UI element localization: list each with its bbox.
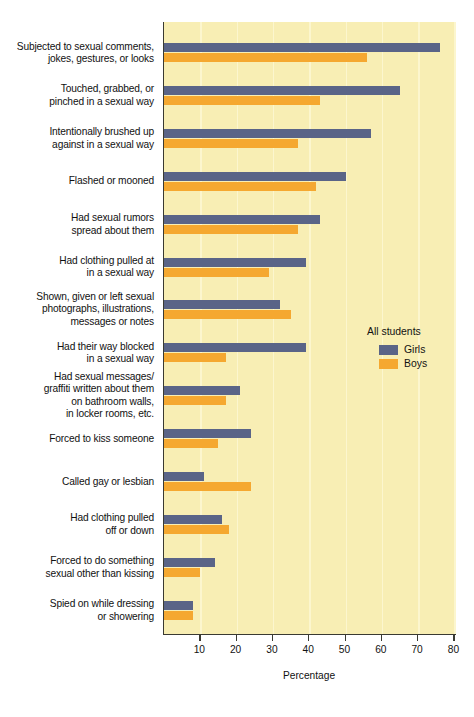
x-tick-mark-40 [308, 634, 309, 641]
category-label: Spied on while dressingor showering [0, 598, 154, 623]
bar-boys [164, 525, 229, 534]
bar-group [164, 172, 456, 191]
bar-boys [164, 182, 316, 191]
bar-boys [164, 439, 218, 448]
category-label: Touched, grabbed, orpinched in a sexual … [0, 83, 154, 108]
legend-item-boys: Boys [379, 358, 471, 369]
x-tick-mark-10 [199, 634, 200, 641]
category-label: Had clothing pulledoff or down [0, 512, 154, 537]
bar-group [164, 558, 456, 577]
category-label: Forced to kiss someone [0, 432, 154, 444]
bar-group [164, 43, 456, 62]
bar-girls [164, 386, 240, 395]
horizontal-bar-chart: Subjected to sexual comments,jokes, gest… [0, 0, 474, 717]
bar-boys [164, 225, 298, 234]
x-axis: 1020304050607080 [163, 634, 455, 674]
legend-item-girls: Girls [379, 344, 471, 355]
bar-girls [164, 86, 400, 95]
x-tick-mark-30 [272, 634, 273, 641]
bar-girls [164, 172, 346, 181]
x-tick-label-60: 60 [375, 644, 386, 655]
legend-swatch-girls [379, 345, 398, 355]
bar-group [164, 429, 456, 448]
x-tick-mark-20 [236, 634, 237, 641]
bar-boys [164, 482, 251, 491]
bar-group [164, 386, 456, 405]
bar-girls [164, 515, 222, 524]
bar-group [164, 258, 456, 277]
x-tick-mark-70 [417, 634, 418, 641]
category-axis-labels: Subjected to sexual comments,jokes, gest… [0, 22, 158, 634]
category-label: Called gay or lesbian [0, 475, 154, 487]
x-tick-label-10: 10 [194, 644, 205, 655]
category-label: Subjected to sexual comments,jokes, gest… [0, 40, 154, 65]
bar-group [164, 300, 456, 319]
category-label: Shown, given or left sexualphotographs, … [0, 291, 154, 328]
category-label: Had sexual messages/graffiti written abo… [0, 371, 154, 421]
legend-label-boys: Boys [404, 358, 427, 369]
category-label: Flashed or mooned [0, 175, 154, 187]
category-label: Had their way blockedin a sexual way [0, 340, 154, 365]
legend-title: All students [367, 326, 471, 337]
bar-girls [164, 429, 251, 438]
legend-swatch-boys [379, 359, 398, 369]
x-axis-title: Percentage [163, 670, 455, 681]
bar-girls [164, 472, 204, 481]
bar-group [164, 129, 456, 148]
x-tick-mark-60 [381, 634, 382, 641]
bar-group [164, 472, 456, 491]
x-tick-label-50: 50 [339, 644, 350, 655]
category-label: Had sexual rumorsspread about them [0, 212, 154, 237]
x-tick-mark-80 [453, 634, 454, 641]
legend-label-girls: Girls [404, 344, 425, 355]
category-label: Forced to do somethingsexual other than … [0, 555, 154, 580]
bar-group [164, 86, 456, 105]
bar-girls [164, 558, 215, 567]
bar-boys [164, 268, 269, 277]
x-tick-mark-50 [345, 634, 346, 641]
x-tick-label-20: 20 [230, 644, 241, 655]
bar-girls [164, 258, 306, 267]
x-tick-label-40: 40 [303, 644, 314, 655]
bar-girls [164, 129, 371, 138]
bar-boys [164, 611, 193, 620]
bar-boys [164, 568, 200, 577]
bar-girls [164, 601, 193, 610]
bar-girls [164, 300, 280, 309]
bar-boys [164, 310, 291, 319]
bar-girls [164, 43, 440, 52]
category-label: Had clothing pulled atin a sexual way [0, 255, 154, 280]
x-tick-label-30: 30 [266, 644, 277, 655]
x-tick-label-80: 80 [448, 644, 459, 655]
bar-boys [164, 53, 367, 62]
bar-boys [164, 96, 320, 105]
bar-boys [164, 139, 298, 148]
x-tick-label-70: 70 [411, 644, 422, 655]
bar-group [164, 515, 456, 534]
bar-boys [164, 353, 226, 362]
bar-group [164, 215, 456, 234]
bar-group [164, 601, 456, 620]
bar-girls [164, 343, 306, 352]
bar-boys [164, 396, 226, 405]
bar-girls [164, 215, 320, 224]
category-label: Intentionally brushed upagainst in a sex… [0, 126, 154, 151]
legend: All students Girls Boys [367, 326, 471, 372]
